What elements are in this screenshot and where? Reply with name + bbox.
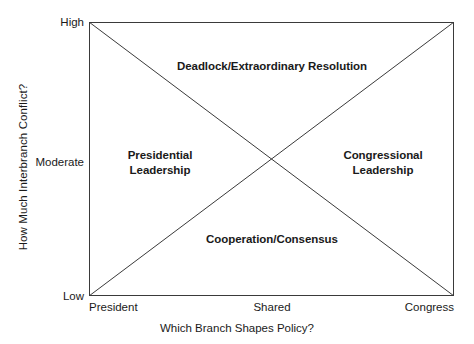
y-tick-low-wrap: Low — [0, 289, 84, 303]
quadrant-label-congressional-leadership-line2: Leadership — [283, 163, 474, 178]
x-tick-label-president: President — [89, 300, 138, 314]
x-tick-label-congress: Congress — [334, 300, 454, 314]
quadrant-label-cooperation-consensus: Cooperation/Consensus — [112, 232, 432, 247]
quadrant-label-deadlock: Deadlock/Extraordinary Resolution — [112, 59, 432, 74]
y-tick-label-low: Low — [63, 289, 84, 303]
quadrant-label-congressional-leadership-line1: Congressional — [283, 148, 474, 163]
quadrant-label-congressional-leadership: Congressional Leadership — [283, 148, 474, 178]
quadrant-label-presidential-leadership: Presidential Leadership — [60, 148, 260, 178]
y-tick-label-high: High — [60, 15, 84, 29]
y-tick-high-wrap: High — [0, 15, 84, 29]
interbranch-conflict-diagram: How Much Interbranch Conflict? High Mode… — [0, 0, 474, 344]
x-tick-label-shared: Shared — [212, 300, 332, 314]
quadrant-label-presidential-leadership-line1: Presidential — [60, 148, 260, 163]
x-axis-title: Which Branch Shapes Policy? — [0, 321, 474, 335]
quadrant-label-presidential-leadership-line2: Leadership — [60, 163, 260, 178]
